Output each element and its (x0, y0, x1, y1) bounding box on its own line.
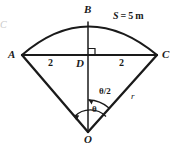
angle-label-half-theta: θ/2 (99, 87, 111, 96)
segment-label-ad: 2 (48, 58, 53, 68)
arc-length-symbol: S (113, 10, 119, 21)
segment-label-dc: 2 (119, 58, 124, 68)
angle-label-theta: θ (92, 105, 97, 114)
arc-length-label: S=5m (113, 11, 144, 21)
point-label-d: D (76, 58, 84, 69)
arc-abc (22, 27, 157, 56)
point-label-c: C (162, 49, 169, 60)
radius-label: r (131, 92, 135, 101)
edge-clipped-glyph: C (0, 20, 7, 30)
sector-diagram-canvas (0, 0, 175, 147)
point-label-a: A (8, 49, 15, 60)
arc-length-value: 5 (128, 10, 133, 21)
geometry-figure: C B A C D O 2 2 θ/2 θ r S=5m (0, 0, 175, 147)
point-label-b: B (84, 4, 91, 15)
arc-length-unit: m (135, 10, 143, 21)
arc-length-equals: = (121, 10, 127, 21)
point-label-o: O (84, 134, 92, 145)
